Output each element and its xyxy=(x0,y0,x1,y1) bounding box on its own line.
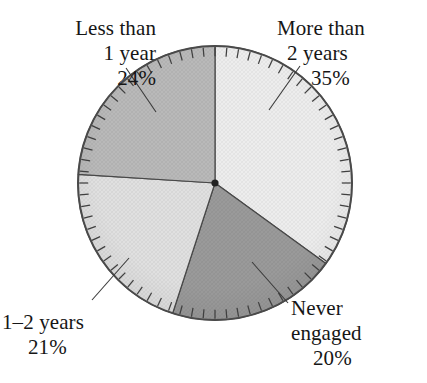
rim-tick xyxy=(226,48,227,57)
label-more-than-2-years: More than 2 years 35% xyxy=(277,16,427,91)
label-1-2-years-value: 21% xyxy=(2,335,162,360)
label-1-2-years-line1: 1–2 years xyxy=(2,310,162,335)
cropped-heading-strip xyxy=(0,0,427,12)
rim-tick xyxy=(341,171,350,172)
label-never-engaged-value: 20% xyxy=(291,346,427,371)
rim-tick xyxy=(203,48,204,57)
label-never-engaged: Never engaged 20% xyxy=(291,296,427,371)
rim-tick xyxy=(226,309,227,318)
label-less-than-1-year-value: 24% xyxy=(6,66,156,91)
pie-center-dot xyxy=(211,179,218,186)
label-more-than-2-years-line1: More than xyxy=(277,16,427,41)
rim-tick xyxy=(203,309,204,318)
label-1-2-years: 1–2 years 21% xyxy=(2,310,162,360)
label-less-than-1-year-line2: 1 year xyxy=(6,41,156,66)
label-more-than-2-years-line2: 2 years xyxy=(277,41,427,66)
rim-tick xyxy=(80,194,89,195)
rim-tick xyxy=(80,171,89,172)
label-less-than-1-year: Less than 1 year 24% xyxy=(6,16,156,91)
label-never-engaged-line2: engaged xyxy=(291,321,427,346)
rim-tick xyxy=(341,194,350,195)
label-more-than-2-years-value: 35% xyxy=(277,66,427,91)
label-never-engaged-line1: Never xyxy=(291,296,427,321)
pie-chart-figure: Less than 1 year 24% More than 2 years 3… xyxy=(0,0,427,383)
label-less-than-1-year-line1: Less than xyxy=(6,16,156,41)
